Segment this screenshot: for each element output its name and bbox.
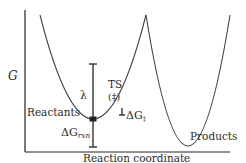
marcus-theory-diagram: G λ TS (‡) Reactants ΔGrxn ΔG‡ Products … [0, 0, 246, 163]
ts-symbol: (‡) [108, 91, 120, 102]
product-curve [146, 15, 230, 146]
x-axis-label: Reaction coordinate [83, 152, 190, 163]
ts-label: TS [108, 78, 122, 90]
products-label: Products [190, 130, 237, 142]
dg-rxn-sub: rxn [78, 131, 91, 140]
lambda-label: λ [80, 89, 87, 102]
dg-activation-sub: ‡ [143, 115, 147, 123]
dg-activation-label: ΔG‡ [126, 109, 147, 123]
dg-rxn-main: ΔG [61, 126, 78, 139]
dg-activation-main: ΔG [126, 109, 143, 122]
reactants-label: Reactants [27, 106, 80, 118]
y-axis-label: G [8, 69, 18, 83]
dg-rxn-label: ΔGrxn [61, 126, 91, 140]
reactant-minimum-marker [90, 117, 97, 122]
